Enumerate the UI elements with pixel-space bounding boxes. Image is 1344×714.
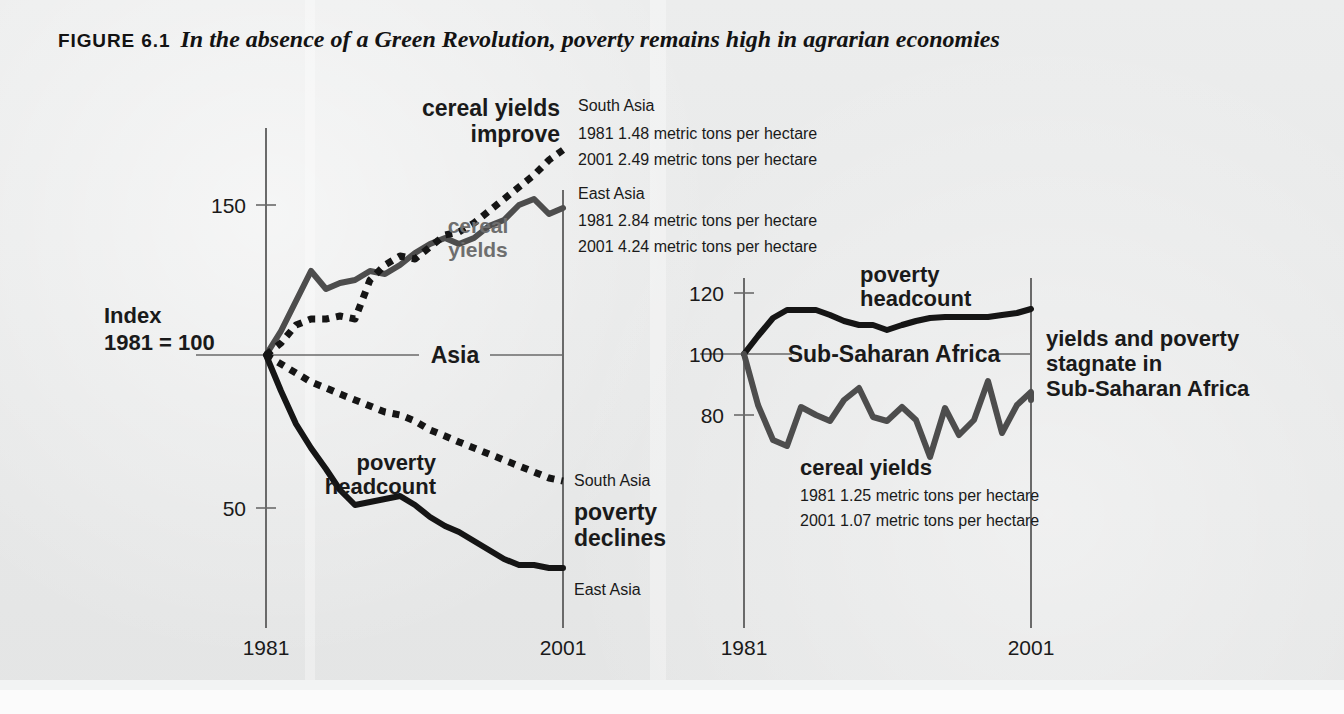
right-xtick-label-2001: 2001	[1008, 636, 1055, 659]
right-note-row2: 2001 1.07 metric tons per hectare	[800, 512, 1039, 529]
left-annotation-yields-improve-line2: improve	[471, 121, 560, 147]
left-note-south-asia-row2: 2001 2.49 metric tons per hectare	[578, 151, 817, 168]
left-annotation-poverty-headcount-line2: headcount	[325, 474, 437, 499]
left-note-east-asia-row1: 1981 2.84 metric tons per hectare	[578, 212, 817, 229]
left-annotation-poverty-declines-line2: declines	[574, 525, 666, 551]
left-ytick-label-150: 150	[211, 194, 246, 217]
left-note-east-asia-region: East Asia	[578, 185, 645, 202]
series-ssa-cereal-yields	[744, 354, 1031, 457]
left-annotation-cereal-yields-line2: yields	[448, 238, 508, 261]
right-annotation-poverty-headcount-line2: headcount	[860, 286, 972, 311]
right-annotation-cereal-yields: cereal yields	[800, 455, 932, 480]
right-ytick-label-80: 80	[701, 404, 724, 427]
left-annotation-cereal-yields-line1: cereal	[448, 214, 509, 237]
right-side-note-line2: stagnate in	[1046, 351, 1162, 376]
right-note-row1: 1981 1.25 metric tons per hectare	[800, 487, 1039, 504]
left-panel-asia: 150 50 1981 2001 Index 1981 = 100 Asia c…	[104, 95, 817, 659]
left-index-label-line1: Index	[104, 303, 162, 328]
left-xtick-label-1981: 1981	[243, 636, 290, 659]
left-note-east-asia-row2: 2001 4.24 metric tons per hectare	[578, 238, 817, 255]
left-index-label-line2: 1981 = 100	[104, 330, 215, 355]
right-xtick-label-1981: 1981	[721, 636, 768, 659]
left-annotation-yields-improve-line1: cereal yields	[422, 95, 560, 121]
left-annotation-poverty-declines-line1: poverty	[574, 499, 657, 525]
left-endpoint-label-east-asia-poverty: East Asia	[574, 581, 641, 598]
left-annotation-poverty-headcount-line1: poverty	[357, 450, 437, 475]
right-ytick-label-100: 100	[689, 343, 724, 366]
left-endpoint-label-south-asia-poverty: South Asia	[574, 472, 651, 489]
figure-panel: FIGURE 6.1In the absence of a Green Revo…	[0, 0, 1344, 714]
page-bottom-shade	[0, 680, 1344, 690]
page-bottom-margin	[0, 690, 1344, 714]
left-note-south-asia-region: South Asia	[578, 97, 655, 114]
left-xtick-label-2001: 2001	[540, 636, 587, 659]
left-ytick-label-50: 50	[223, 497, 246, 520]
right-annotation-poverty-headcount-line1: poverty	[860, 262, 940, 287]
series-east-asia-cereal-yields	[266, 199, 563, 355]
right-region-label: Sub-Saharan Africa	[788, 341, 1001, 367]
left-region-label: Asia	[431, 342, 480, 368]
right-panel-ssa: 120 100 80 1981 2001 Sub-Saharan Africa …	[689, 262, 1250, 659]
right-side-note-line3: Sub-Saharan Africa	[1046, 376, 1250, 401]
left-note-south-asia-row1: 1981 1.48 metric tons per hectare	[578, 125, 817, 142]
right-ytick-label-120: 120	[689, 282, 724, 305]
right-side-note-line1: yields and poverty	[1046, 326, 1240, 351]
figure-svg: 150 50 1981 2001 Index 1981 = 100 Asia c…	[0, 0, 1344, 714]
